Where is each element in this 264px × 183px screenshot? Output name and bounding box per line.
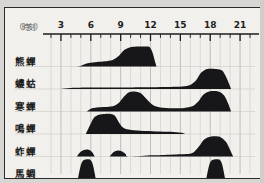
figure-page: （時刻） 36912151821 熊蟬螻蛄寒蟬鳴蟬蚱蟬馬蜩 xyxy=(0,0,264,183)
species-row-label: 鳴蟬 xyxy=(15,123,36,134)
species-curve xyxy=(61,69,231,89)
species-row-label: 蚱蟬 xyxy=(15,146,36,157)
x-tick-label: 9 xyxy=(118,20,124,30)
species-row-label: 螻蛄 xyxy=(15,78,36,89)
x-tick-label: 15 xyxy=(174,20,187,30)
species-row-label: 寒蟬 xyxy=(14,101,36,112)
chart-panel: （時刻） 36912151821 熊蟬螻蛄寒蟬鳴蟬蚱蟬馬蜩 xyxy=(4,7,260,179)
x-tick-label: 21 xyxy=(234,20,247,30)
species-row-label: 熊蟬 xyxy=(15,56,36,67)
activity-area-chart: 36912151821 熊蟬螻蛄寒蟬鳴蟬蚱蟬馬蜩 xyxy=(5,8,260,179)
species-curve xyxy=(110,136,233,156)
time-axis xyxy=(43,34,259,41)
species-curve xyxy=(77,149,95,156)
species-curve xyxy=(61,46,157,66)
axis-tick-labels: 36912151821 xyxy=(58,20,247,30)
species-row-labels: 熊蟬螻蛄寒蟬鳴蟬蚱蟬馬蜩 xyxy=(14,56,36,180)
page-right-edge xyxy=(260,0,264,183)
species-curve xyxy=(87,91,231,111)
x-tick-label: 6 xyxy=(88,20,94,30)
x-tick-label: 3 xyxy=(58,20,64,30)
x-tick-label: 12 xyxy=(144,20,157,30)
axis-caption-label: （時刻） xyxy=(15,21,42,32)
species-row-label: 馬蜩 xyxy=(14,168,36,179)
species-curve xyxy=(78,159,96,179)
species-curve xyxy=(206,159,225,179)
plot-area: （時刻） 36912151821 熊蟬螻蛄寒蟬鳴蟬蚱蟬馬蜩 xyxy=(5,8,260,179)
x-tick-label: 18 xyxy=(204,20,217,30)
